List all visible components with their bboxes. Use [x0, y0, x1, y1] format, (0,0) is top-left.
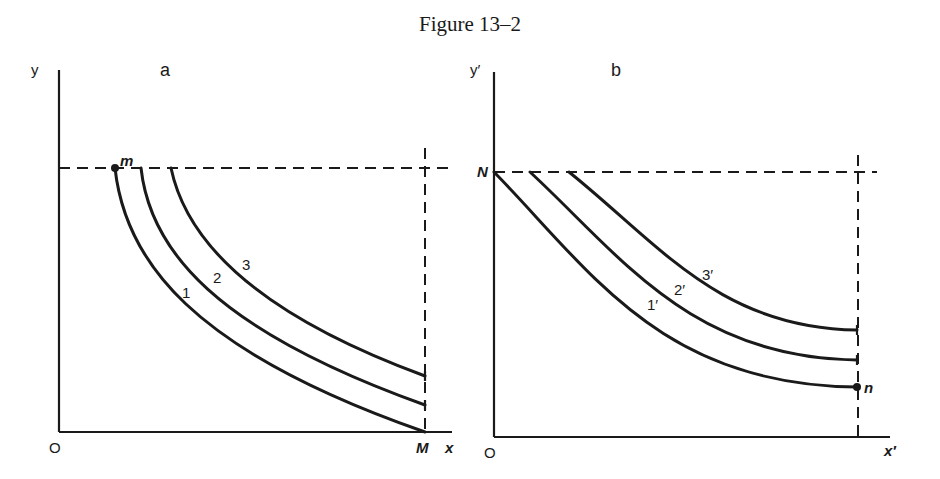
figure-canvas: y a O m M x 1 2 3 y′ b O N n x′ 1′ 2′ 3′ [0, 0, 940, 479]
panel-b: y′ b O N n x′ 1′ 2′ 3′ [470, 60, 897, 461]
curve-label-1: 1 [182, 284, 190, 301]
x-axis-label-b: x′ [883, 442, 897, 459]
point-M-label: M [416, 439, 429, 456]
curve-label-2: 2 [213, 269, 221, 286]
curve-label-3: 3 [242, 256, 250, 273]
point-m-label: m [120, 152, 133, 169]
curve-label-2-prime: 2′ [674, 281, 685, 298]
curve-label-1-prime: 1′ [647, 296, 658, 313]
point-m-marker [111, 164, 119, 172]
point-n-marker [853, 383, 861, 391]
panel-label-a: a [160, 60, 171, 80]
origin-label-b: O [484, 444, 496, 461]
curve-label-3-prime: 3′ [702, 266, 713, 283]
curve-3-a [171, 168, 425, 376]
y-axis-label-a: y [31, 61, 39, 78]
point-N-label: N [477, 163, 489, 180]
panel-label-b: b [611, 60, 621, 80]
panel-a: y a O m M x 1 2 3 [31, 60, 454, 456]
curve-2-b [530, 172, 857, 360]
point-n-label: n [864, 379, 873, 396]
y-axis-label-b: y′ [470, 61, 481, 78]
x-axis-label-a: x [444, 439, 454, 456]
origin-label-a: O [49, 439, 61, 456]
